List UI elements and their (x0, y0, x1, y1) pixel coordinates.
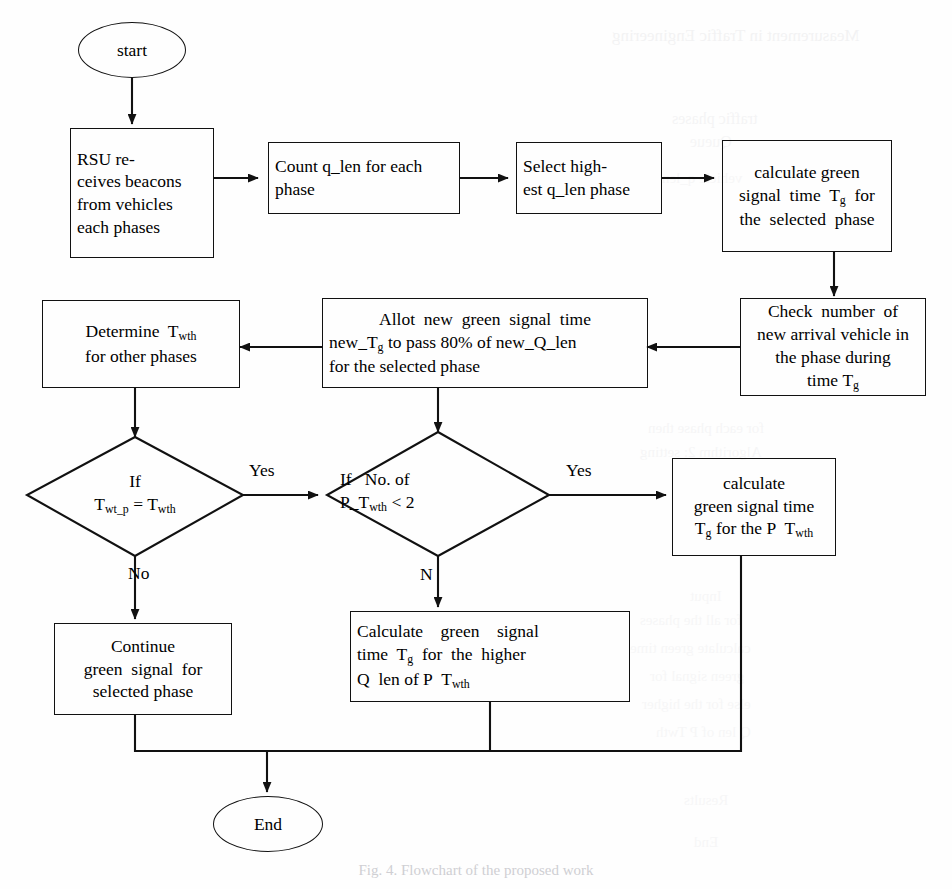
node-select-highest-qlen[interactable]: Select high- est q_len phase (516, 142, 662, 214)
node-check-text: Check number of new arrival vehicle in t… (741, 300, 925, 393)
edge-label-yes-right: Yes (566, 462, 591, 480)
node-determine-line-2: for other phases (85, 346, 197, 366)
node-calculate-green-higher-qlen[interactable]: Calculate green signal time Tg for the h… (350, 611, 630, 702)
node-calcgreen-line-3: the selected phase (739, 209, 874, 229)
node-allot-line-3: for the selected phase (329, 355, 641, 378)
node-select-line-1: Select high- (523, 156, 607, 176)
node-count-text: Count q_len for each phase (269, 155, 459, 201)
edge-continue-to-join (135, 715, 267, 751)
node-decision-count-line-1: If No. of (340, 469, 410, 489)
node-select-line-2: est q_len phase (523, 179, 630, 199)
node-calcgreen-line-1: calculate green (754, 162, 859, 182)
flowchart-page: Measurement in Traffic Engineeringtraffi… (0, 0, 952, 889)
node-decision-count[interactable]: If No. of P_Twth < 2 (340, 468, 536, 516)
node-continue-line-1: Continue (111, 636, 175, 656)
node-continue-line-3: selected phase (93, 681, 194, 701)
edge-label-no-left: No (128, 565, 149, 583)
node-decision-twt-line-2: Twt_p = Twth (94, 494, 175, 514)
node-determine-line-1: Determine Twth (86, 321, 197, 341)
node-rsu-line-4: each phases (77, 217, 160, 237)
node-end[interactable]: End (213, 796, 323, 852)
node-allot-line-1: Allot new green signal time (329, 308, 641, 331)
node-calculate-green-time[interactable]: calculate green signal time Tg for the s… (722, 140, 892, 252)
node-count-line-1: Count q_len for each (275, 156, 422, 176)
node-end-label: End (254, 813, 282, 836)
node-calchigher-line-3: Q len of P Twth (357, 668, 623, 693)
node-start-label: start (117, 39, 147, 62)
node-check-line-3: the phase during time Tg (775, 347, 891, 390)
node-calchigher-line-1: Calculate green signal (357, 620, 623, 643)
node-start[interactable]: start (78, 22, 186, 78)
node-calculate-green-for-p-twth[interactable]: calculate green signal time Tg for the P… (672, 458, 836, 556)
node-check-new-arrivals[interactable]: Check number of new arrival vehicle in t… (740, 298, 926, 396)
node-rsu-line-3: from vehicles (77, 194, 173, 214)
node-decision-count-line-2: P_Twth < 2 (340, 492, 414, 512)
node-continue-line-2: green signal for (84, 659, 203, 679)
node-calcgreen-text: calculate green signal time Tg for the s… (723, 161, 891, 231)
node-count-qlen[interactable]: Count q_len for each phase (268, 142, 460, 214)
node-continue-green-signal[interactable]: Continue green signal for selected phase (54, 623, 232, 715)
node-allot-text: Allot new green signal time new_Tg to pa… (323, 308, 647, 378)
node-check-line-1: Check number of (768, 301, 898, 321)
node-calcp-line-3: Tg for the P Twth (695, 518, 813, 538)
node-allot-new-green-time[interactable]: Allot new green signal time new_Tg to pa… (322, 298, 648, 388)
node-decision-twt-line-1: If (129, 471, 141, 491)
node-decision-twt[interactable]: If Twt_p = Twth (35, 470, 235, 518)
node-calcp-text: calculate green signal time Tg for the P… (673, 472, 835, 542)
node-determine-text: Determine Twth for other phases (43, 320, 239, 368)
node-calcp-line-2: green signal time (694, 496, 815, 516)
node-calchigher-line-2: time Tg for the higher (357, 643, 623, 668)
node-calchigher-text: Calculate green signal time Tg for the h… (351, 620, 629, 692)
node-calcgreen-line-2: signal time Tg for (739, 185, 875, 205)
edge-calchigher-to-join (267, 702, 490, 751)
edge-label-no-right: N (420, 566, 433, 584)
node-check-line-2: new arrival vehicle in (757, 324, 909, 344)
node-rsu-line-1: RSU re- (77, 149, 135, 169)
node-count-line-2: phase (275, 179, 315, 199)
node-continue-text: Continue green signal for selected phase (55, 635, 231, 703)
figure-caption: Fig. 4. Flowchart of the proposed work (0, 862, 952, 879)
edge-label-yes-left: Yes (249, 462, 274, 480)
node-rsu-receives-beacons[interactable]: RSU re- ceives beacons from vehicles eac… (70, 128, 214, 258)
node-rsu-text: RSU re- ceives beacons from vehicles eac… (71, 148, 213, 239)
node-determine-twth[interactable]: Determine Twth for other phases (42, 300, 240, 388)
node-calcp-line-1: calculate (723, 473, 785, 493)
node-select-text: Select high- est q_len phase (517, 155, 661, 201)
node-rsu-line-2: ceives beacons (77, 171, 181, 191)
node-allot-line-2: new_Tg to pass 80% of new_Q_len (329, 331, 641, 356)
